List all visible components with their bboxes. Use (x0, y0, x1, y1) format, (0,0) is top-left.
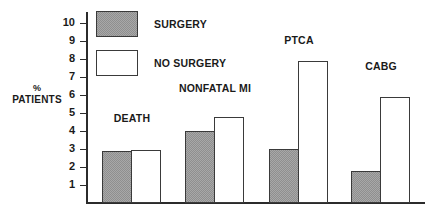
y-tick-mark (80, 185, 87, 186)
y-tick-9: 9 (0, 41, 87, 42)
y-tick-mark (80, 77, 87, 78)
y-tick-label: 1 (51, 179, 75, 190)
y-tick-mark (80, 149, 87, 150)
y-tick-label: 5 (51, 107, 75, 118)
bar-group-ptca: PTCA (269, 12, 329, 203)
y-tick-label: 2 (51, 161, 75, 172)
plot-area: DEATHNONFATAL MIPTCACABG (88, 12, 425, 203)
y-tick-2: 2 (0, 167, 87, 168)
bar-group-cabg: CABG (351, 12, 411, 203)
y-tick-mark (80, 23, 87, 24)
bar-group-death: DEATH (102, 12, 162, 203)
bar-no-surgery-death (131, 150, 161, 203)
y-tick-1: 1 (0, 185, 87, 186)
bar-group-label: CABG (365, 60, 397, 72)
y-tick-label: 7 (51, 71, 75, 82)
y-tick-mark (80, 131, 87, 132)
y-tick-label: 8 (51, 53, 75, 64)
y-tick-mark (80, 59, 87, 60)
y-tick-mark (80, 41, 87, 42)
y-tick-label: 9 (51, 35, 75, 46)
bar-surgery-nonfatal-mi (185, 131, 215, 203)
y-tick-label: 3 (51, 143, 75, 154)
bar-no-surgery-ptca (298, 61, 328, 203)
y-tick-label: 4 (51, 125, 75, 136)
y-tick-6: 6 (0, 95, 87, 96)
y-tick-5: 5 (0, 113, 87, 114)
bar-surgery-ptca (269, 149, 299, 203)
bar-chart-figure: % PATIENTS 10987654321 SURGERY NO SURGER… (0, 0, 437, 216)
y-tick-label: 10 (51, 17, 75, 28)
y-tick-8: 8 (0, 59, 87, 60)
y-tick-mark (80, 167, 87, 168)
bar-group-nonfatal-mi: NONFATAL MI (185, 12, 245, 203)
bar-group-label: PTCA (284, 34, 313, 46)
y-tick-7: 7 (0, 77, 87, 78)
bar-group-label: NONFATAL MI (179, 82, 251, 94)
bar-group-label: DEATH (114, 112, 150, 124)
y-tick-mark (80, 113, 87, 114)
y-tick-10: 10 (0, 23, 87, 24)
y-tick-3: 3 (0, 149, 87, 150)
bar-no-surgery-nonfatal-mi (214, 117, 244, 203)
bar-surgery-cabg (351, 171, 381, 203)
y-tick-mark (80, 95, 87, 96)
bar-no-surgery-cabg (380, 97, 410, 203)
bar-surgery-death (102, 151, 132, 203)
y-tick-label: 6 (51, 89, 75, 100)
y-tick-4: 4 (0, 131, 87, 132)
